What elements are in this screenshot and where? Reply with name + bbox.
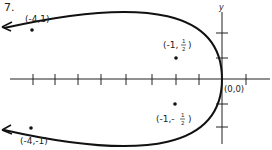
- point-neg1-half: [174, 56, 178, 60]
- lower-arrow-icon: [2, 125, 12, 134]
- svg-text:2: 2: [181, 120, 185, 126]
- label-origin: (0,0): [224, 84, 244, 94]
- point-neg1-neghalf: [173, 102, 177, 106]
- problem-number: 7.: [4, 1, 15, 14]
- svg-text:(-1,-: (-1,-: [156, 114, 175, 124]
- svg-text:1: 1: [182, 38, 186, 44]
- y-axis-label: y: [218, 3, 224, 12]
- label-neg4-neg1: (-4,-1): [20, 136, 48, 146]
- label-neg1-half: (-1, 1 2 ): [163, 38, 192, 52]
- svg-text:(-1,: (-1,: [163, 40, 178, 50]
- label-neg1-neghalf: (-1,- 1 2 ): [156, 112, 192, 126]
- parabola-graph: 7. y (-4,1) (-1, 1 2 ) (-1,-: [0, 0, 272, 150]
- svg-text:): ): [188, 114, 192, 124]
- svg-text:1: 1: [181, 112, 185, 118]
- label-neg4-1: (-4,1): [25, 14, 50, 24]
- svg-text:2: 2: [182, 46, 186, 52]
- point-neg4-1: [30, 28, 34, 32]
- point-neg4-neg1: [29, 126, 33, 130]
- svg-text:): ): [188, 40, 192, 50]
